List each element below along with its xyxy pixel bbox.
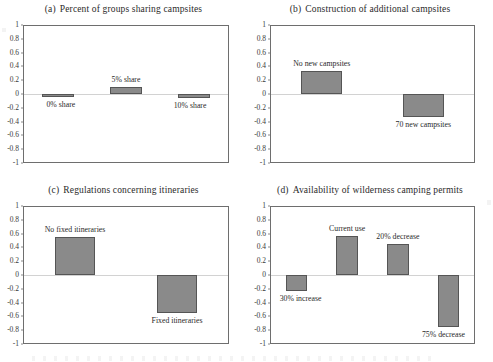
panel-b-tick-label: 1 (262, 21, 266, 29)
panel-c-axis-frame: No fixed itinerariesFixed itineraries (23, 206, 229, 344)
bar (55, 237, 96, 275)
bar (438, 275, 459, 327)
panel-b-tag: (b) (290, 4, 302, 14)
panel-d-tick-label: -1 (260, 340, 266, 348)
panel-c-tick-label: -0.8 (7, 326, 19, 334)
panel-d-tick-label: 0.2 (257, 257, 266, 265)
panel-d-title-text: Availability of wilderness camping permi… (293, 185, 463, 195)
bar-value-label: Current use (329, 225, 365, 233)
panel-b-tick-label: -0.8 (254, 145, 266, 153)
panel-c-tick-label: -0.4 (7, 299, 19, 307)
panel-d-tick-label: 0 (262, 271, 266, 279)
panel-d-tick-label: -0.4 (254, 299, 266, 307)
panel-c-tag: (c) (48, 185, 59, 195)
panel-b-tick-label: 0.8 (257, 35, 266, 43)
multi-panel-bar-figure: (a)Percent of groups sharing campsites 1… (0, 0, 493, 362)
bar (336, 236, 357, 275)
panel-a-tick-label: 1 (15, 21, 19, 29)
panel-b-bar-group: No new campsites70 new campsites (271, 26, 474, 162)
panel-c-tick-label: 0.6 (10, 230, 19, 238)
panel-b-tick-label: -1 (260, 159, 266, 167)
panel-b-plot: 10.80.60.40.20-0.2-0.4-0.6-0.8-1 No new … (270, 25, 475, 163)
panel-a-tick-label: 0.4 (10, 63, 19, 71)
panel-b-tick-label: -0.6 (254, 132, 266, 140)
panel-b-tick-label: -0.4 (254, 118, 266, 126)
panel-a-tick-label: 0.6 (10, 49, 19, 57)
bar-value-label: 70 new campsites (396, 121, 451, 129)
panel-d-tick-label: -0.8 (254, 326, 266, 334)
bar (157, 275, 198, 313)
panel-a-title-text: Percent of groups sharing campsites (60, 4, 202, 14)
bar-value-label: 20% decrease (376, 233, 419, 241)
panel-a-tick-label: 0 (15, 90, 19, 98)
panel-c-plot: 10.80.60.40.20-0.2-0.4-0.6-0.8-1 No fixe… (23, 206, 229, 344)
panel-a-tag: (a) (45, 4, 56, 14)
panel-d-axis-frame: 30% increaseCurrent use20% decrease75% d… (270, 206, 475, 344)
panel-c-tick-label: -0.2 (7, 285, 19, 293)
panel-c-tick-label: -1 (13, 340, 19, 348)
panel-c: (c)Regulations concerning itineraries 10… (0, 181, 247, 362)
bar-value-label: Fixed itineraries (152, 317, 203, 325)
panel-a-tick-label: -1 (13, 159, 19, 167)
panel-a-tick-label: -0.6 (7, 132, 19, 140)
panel-b-axis-frame: No new campsites70 new campsites (270, 25, 475, 163)
panel-d-title: (d)Availability of wilderness camping pe… (247, 185, 493, 195)
bar (42, 94, 73, 97)
panel-c-title-text: Regulations concerning itineraries (63, 185, 198, 195)
panel-a-tick-label: -0.2 (7, 104, 19, 112)
bar-value-label: No fixed itineraries (45, 226, 106, 234)
bar (286, 275, 307, 291)
bar-value-label: 5% share (112, 76, 141, 84)
panel-b-title: (b)Construction of additional campsites (247, 4, 493, 14)
bar (301, 71, 342, 94)
panel-b-tick-label: -0.2 (254, 104, 266, 112)
panel-a: (a)Percent of groups sharing campsites 1… (0, 0, 247, 181)
panel-c-title: (c)Regulations concerning itineraries (0, 185, 247, 195)
panel-d-tick-label: -0.2 (254, 285, 266, 293)
panel-c-tick-label: 0.2 (10, 257, 19, 265)
panel-b-tick-label: 0.6 (257, 49, 266, 57)
panel-c-y-axis-ticks: 10.80.60.40.20-0.2-0.4-0.6-0.8-1 (0, 206, 23, 344)
bar-value-label: 75% decrease (422, 331, 465, 339)
panel-c-tick-label: 0.4 (10, 244, 19, 252)
panel-a-y-axis-ticks: 10.80.60.40.20-0.2-0.4-0.6-0.8-1 (0, 25, 23, 163)
panel-b-tick-label: 0.4 (257, 63, 266, 71)
panel-a-tick-label: -0.4 (7, 118, 19, 126)
panel-d-plot: 10.80.60.40.20-0.2-0.4-0.6-0.8-1 30% inc… (270, 206, 475, 344)
bar (178, 94, 209, 98)
bar (403, 94, 444, 117)
panel-c-bar-group: No fixed itinerariesFixed itineraries (24, 207, 228, 343)
panel-d-tick-label: 0.4 (257, 244, 266, 252)
panel-d-tag: (d) (277, 185, 289, 195)
panel-c-tick-label: -0.6 (7, 313, 19, 321)
panel-d-bar-group: 30% increaseCurrent use20% decrease75% d… (271, 207, 474, 343)
panel-a-bar-group: 0% share5% share10% share (24, 26, 228, 162)
panel-c-tick-label: 1 (15, 202, 19, 210)
panel-a-tick-label: 0.8 (10, 35, 19, 43)
panel-a-tick-label: 0.2 (10, 76, 19, 84)
panel-a-plot: 10.80.60.40.20-0.2-0.4-0.6-0.8-1 0% shar… (23, 25, 229, 163)
bar-value-label: 10% share (174, 102, 207, 110)
panel-b-tick-label: 0 (262, 90, 266, 98)
panel-d-tick-label: -0.6 (254, 313, 266, 321)
panel-d-tick-label: 0.6 (257, 230, 266, 238)
panel-a-tick-label: -0.8 (7, 145, 19, 153)
panel-d: (d)Availability of wilderness camping pe… (247, 181, 493, 362)
panel-d-tick-label: 1 (262, 202, 266, 210)
bar-value-label: 30% increase (280, 295, 322, 303)
panel-a-axis-frame: 0% share5% share10% share (23, 25, 229, 163)
bar (387, 244, 408, 275)
bar-value-label: 0% share (46, 101, 75, 109)
bar (110, 87, 141, 94)
panel-d-tick-label: 0.8 (257, 216, 266, 224)
panel-a-title: (a)Percent of groups sharing campsites (0, 4, 247, 14)
panel-b-title-text: Construction of additional campsites (305, 4, 450, 14)
panel-c-tick-label: 0 (15, 271, 19, 279)
bar-value-label: No new campsites (293, 60, 350, 68)
panel-c-tick-label: 0.8 (10, 216, 19, 224)
panel-b-y-axis-ticks: 10.80.60.40.20-0.2-0.4-0.6-0.8-1 (247, 25, 270, 163)
panel-b-tick-label: 0.2 (257, 76, 266, 84)
panel-b: (b)Construction of additional campsites … (247, 0, 493, 181)
panel-d-y-axis-ticks: 10.80.60.40.20-0.2-0.4-0.6-0.8-1 (247, 206, 270, 344)
